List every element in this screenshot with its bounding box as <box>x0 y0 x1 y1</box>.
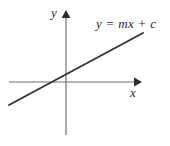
linear-graph-figure: y x y = mx + c <box>0 0 170 146</box>
x-axis-label: x <box>130 86 136 99</box>
linear-function-line <box>9 33 143 105</box>
x-axis <box>9 78 142 87</box>
equation-label: y = mx + c <box>96 17 156 30</box>
y-axis-label: y <box>51 6 57 19</box>
y-axis-arrowhead-icon <box>62 10 71 18</box>
